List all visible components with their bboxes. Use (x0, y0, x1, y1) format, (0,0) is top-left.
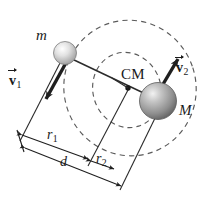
physics-diagram-two-body-orbit: m M CM v1 v2 r1 r2 d (0, 0, 215, 206)
label-small-mass: m (36, 28, 47, 43)
label-radius-2-symbol: r (96, 151, 101, 166)
label-separation: d (60, 155, 67, 169)
label-velocity-1-subscript: 1 (16, 79, 21, 90)
label-velocity-1-symbol: v (9, 74, 16, 88)
label-velocity-2-symbol: v (176, 61, 183, 75)
small-mass-sphere (54, 42, 77, 65)
label-velocity-1: v1 (9, 74, 21, 90)
label-radius-1-symbol: r (47, 127, 52, 142)
label-radius-2: r2 (96, 152, 107, 168)
extension-line-M (120, 112, 158, 190)
label-center-of-mass: CM (121, 67, 145, 82)
label-radius-1: r1 (47, 128, 58, 144)
label-radius-1-subscript: 1 (53, 133, 58, 144)
dimension-tick-left (17, 130, 24, 152)
label-large-mass: M (179, 103, 192, 118)
label-velocity-2-subscript: 2 (183, 66, 188, 77)
label-radius-2-subscript: 2 (102, 157, 107, 168)
large-mass-sphere (140, 83, 177, 120)
label-velocity-2: v2 (176, 61, 188, 77)
